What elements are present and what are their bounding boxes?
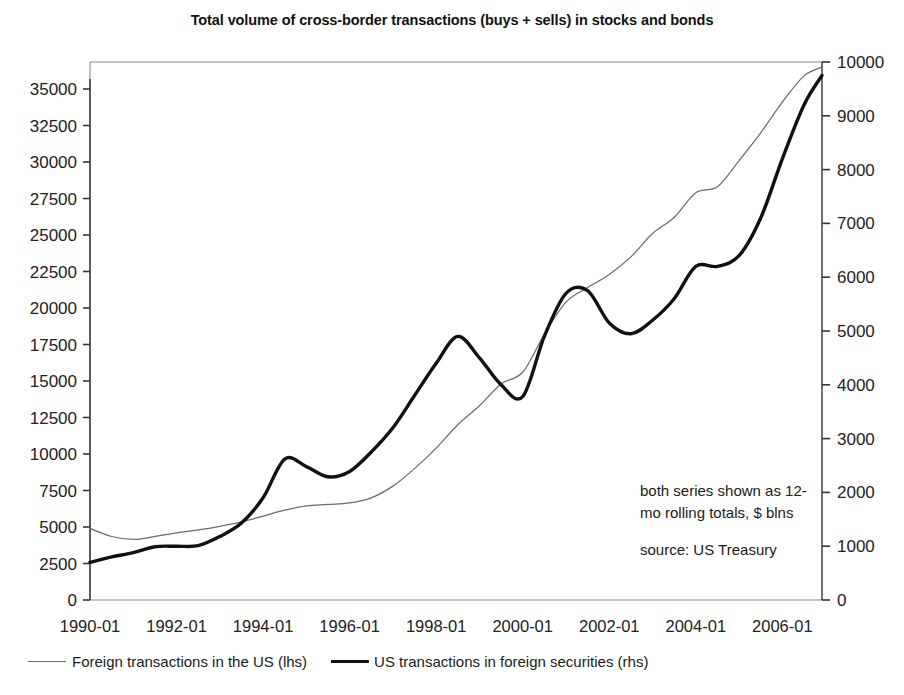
annotation-line-2: mo rolling totals, $ blns [640, 504, 793, 521]
right-axis-tick-label: 3000 [837, 430, 875, 449]
legend-line-thin-icon [28, 661, 66, 662]
left-axis: 0250050007500100001250015000175002000022… [30, 79, 90, 610]
right-axis-tick-label: 7000 [837, 214, 875, 233]
left-axis-tick-label: 0 [68, 591, 77, 610]
right-axis-tick-label: 1000 [837, 537, 875, 556]
left-axis-tick-label: 7500 [39, 482, 77, 501]
left-axis-tick-label: 20000 [30, 299, 77, 318]
x-axis: 1990-011992-011994-011996-011998-012000-… [60, 617, 813, 635]
legend-label-rhs: US transactions in foreign securities (r… [374, 653, 648, 670]
x-axis-tick-label: 2004-01 [666, 617, 727, 635]
x-axis-tick-label: 2006-01 [752, 617, 813, 635]
right-axis-tick-label: 9000 [837, 107, 875, 126]
right-axis-tick-label: 8000 [837, 161, 875, 180]
right-axis-tick-label: 4000 [837, 376, 875, 395]
chart-annotations: both series shown as 12- mo rolling tota… [640, 482, 807, 558]
right-axis-tick-label: 6000 [837, 268, 875, 287]
left-axis-tick-label: 30000 [30, 153, 77, 172]
x-axis-tick-label: 1994-01 [233, 617, 294, 635]
chart-legend: Foreign transactions in the US (lhs) US … [28, 648, 878, 674]
right-axis-tick-label: 10000 [837, 53, 884, 72]
left-axis-tick-label: 15000 [30, 372, 77, 391]
left-axis-tick-label: 32500 [30, 117, 77, 136]
left-axis-tick-label: 27500 [30, 190, 77, 209]
left-axis-tick-label: 5000 [39, 518, 77, 537]
left-axis-tick-label: 2500 [39, 555, 77, 574]
chart-figure: Total volume of cross-border transaction… [0, 0, 904, 695]
x-axis-tick-label: 1992-01 [146, 617, 207, 635]
x-axis-tick-label: 2002-01 [579, 617, 640, 635]
left-axis-tick-label: 22500 [30, 263, 77, 282]
right-axis-tick-label: 2000 [837, 483, 875, 502]
x-axis-tick-label: 2000-01 [492, 617, 553, 635]
series-line-lhs [90, 67, 822, 539]
left-axis-tick-label: 35000 [30, 80, 77, 99]
right-axis-tick-label: 5000 [837, 322, 875, 341]
legend-entry-rhs: US transactions in foreign securities (r… [331, 653, 648, 670]
legend-label-lhs: Foreign transactions in the US (lhs) [72, 653, 307, 670]
right-axis: 0100020003000400050006000700080009000100… [822, 53, 884, 610]
annotation-line-1: both series shown as 12- [640, 482, 807, 499]
legend-entry-lhs: Foreign transactions in the US (lhs) [28, 653, 307, 670]
x-axis-tick-label: 1998-01 [406, 617, 467, 635]
left-axis-tick-label: 17500 [30, 336, 77, 355]
annotation-line-3: source: US Treasury [640, 541, 777, 558]
left-axis-tick-label: 25000 [30, 226, 77, 245]
x-axis-tick-label: 1996-01 [319, 617, 380, 635]
legend-line-thick-icon [331, 660, 369, 663]
right-axis-tick-label: 0 [837, 591, 846, 610]
left-axis-tick-label: 12500 [30, 409, 77, 428]
chart-plot-svg: 0250050007500100001250015000175002000022… [0, 0, 904, 695]
x-axis-tick-label: 1990-01 [60, 617, 121, 635]
left-axis-tick-label: 10000 [30, 445, 77, 464]
